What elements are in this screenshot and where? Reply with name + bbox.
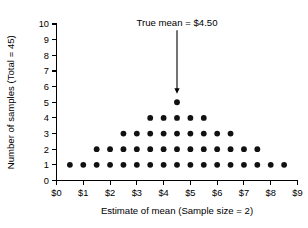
y-axis-tick-label: 9 — [44, 35, 49, 45]
data-dot — [228, 131, 234, 137]
data-dot — [80, 162, 86, 168]
data-dot — [201, 131, 207, 137]
data-dot — [134, 162, 140, 168]
data-dot — [174, 99, 180, 105]
y-axis-tick-label: 2 — [44, 145, 49, 155]
data-dot — [268, 162, 274, 168]
dot-plot-chart: 012345678910 $0$1$2$3$4$5$6$7$8$9 True m… — [0, 0, 308, 228]
data-dot — [228, 146, 234, 152]
chart-canvas: 012345678910 $0$1$2$3$4$5$6$7$8$9 True m… — [0, 0, 308, 228]
data-dot — [107, 162, 113, 168]
data-dot — [214, 131, 220, 137]
x-axis-tick-label: $3 — [132, 188, 142, 198]
data-dot — [161, 131, 167, 137]
y-axis-tick-label: 4 — [44, 113, 49, 123]
data-dot — [134, 131, 140, 137]
data-dot — [161, 146, 167, 152]
x-axis-tick-label: $9 — [292, 188, 302, 198]
y-axis-tick-label: 6 — [44, 82, 49, 92]
data-dot — [174, 146, 180, 152]
y-axis-tick-label: 1 — [44, 160, 49, 170]
data-dot — [107, 146, 113, 152]
data-dot — [121, 162, 127, 168]
data-dot — [201, 162, 207, 168]
data-dot — [214, 162, 220, 168]
data-dot — [187, 131, 193, 137]
data-dot — [214, 146, 220, 152]
x-axis-title: Estimate of mean (Sample size = 2) — [101, 205, 253, 216]
data-dot — [134, 146, 140, 152]
data-dot — [147, 146, 153, 152]
data-dot — [147, 115, 153, 121]
data-dot — [147, 131, 153, 137]
data-dot — [174, 131, 180, 137]
arrow-head-icon — [174, 88, 179, 94]
data-dot — [94, 146, 100, 152]
data-dot — [174, 162, 180, 168]
y-axis: 012345678910 — [39, 19, 57, 186]
y-axis-tick-label: 0 — [44, 176, 49, 186]
x-axis-tick-label: $2 — [105, 188, 115, 198]
x-axis-tick-label: $6 — [212, 188, 222, 198]
data-dot — [281, 162, 287, 168]
y-axis-tick-label: 5 — [44, 98, 49, 108]
y-axis-tick-label: 8 — [44, 51, 49, 61]
data-dot — [147, 162, 153, 168]
x-axis-tick-label: $5 — [185, 188, 195, 198]
x-axis-tick-label: $0 — [51, 188, 61, 198]
data-dot — [121, 131, 127, 137]
x-axis-tick-label: $4 — [158, 188, 168, 198]
x-axis: $0$1$2$3$4$5$6$7$8$9 — [51, 181, 302, 199]
data-dot — [187, 162, 193, 168]
x-axis-tick-label: $1 — [78, 188, 88, 198]
y-axis-tick-label: 3 — [44, 129, 49, 139]
y-axis-tick-label: 10 — [39, 19, 49, 29]
data-dot — [254, 146, 260, 152]
data-dot — [67, 162, 73, 168]
data-dot — [187, 146, 193, 152]
true-mean-annotation: True mean = $4.50 — [137, 17, 218, 93]
x-axis-tick-label: $7 — [239, 188, 249, 198]
data-dot — [174, 115, 180, 121]
y-axis-title: Number of samples (Total = 45) — [5, 35, 16, 169]
data-dots — [67, 99, 287, 167]
data-dot — [121, 146, 127, 152]
data-dot — [161, 162, 167, 168]
data-dot — [201, 115, 207, 121]
x-axis-tick-label: $8 — [266, 188, 276, 198]
data-dot — [201, 146, 207, 152]
data-dot — [241, 162, 247, 168]
data-dot — [228, 162, 234, 168]
data-dot — [254, 162, 260, 168]
data-dot — [241, 146, 247, 152]
data-dot — [94, 162, 100, 168]
data-dot — [187, 115, 193, 121]
y-axis-tick-label: 7 — [44, 66, 49, 76]
true-mean-label: True mean = $4.50 — [137, 17, 218, 28]
data-dot — [161, 115, 167, 121]
